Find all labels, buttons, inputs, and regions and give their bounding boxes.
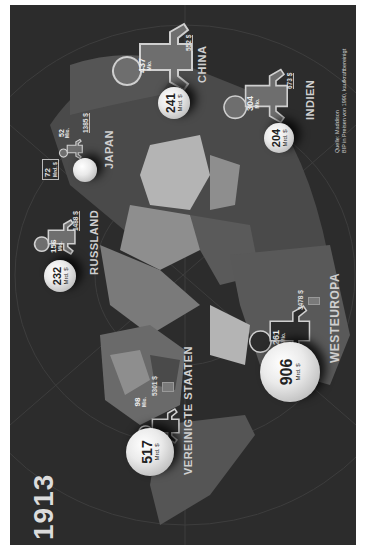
gdp-unit: Mrd. $	[295, 359, 301, 386]
person-icon	[58, 137, 84, 161]
westeuropa-gdp-per-capita: 3478 $	[297, 290, 304, 310]
russland-gdp: 232	[52, 267, 63, 285]
usa-population: 98Mio.	[134, 397, 147, 407]
westeuropa-label: WESTEUROPA	[328, 273, 342, 363]
westeuropa-gdp-ball: 906Mrd. $	[260, 342, 320, 402]
russland-label: RUSSLAND	[88, 210, 100, 275]
usa-gdp-ball: 517Mrd. $	[126, 428, 174, 476]
indien-population: 304Mio.	[246, 96, 260, 111]
indien-gdp-per-capita: 673 $	[286, 73, 294, 89]
russland-population: 156Mio.	[50, 240, 63, 253]
china-gdp-per-capita: 552 $	[185, 35, 193, 51]
japan-gdp-per-capita: 1385 $	[82, 113, 90, 133]
china-label: CHINA	[196, 46, 208, 83]
russland-gdp-per-capita: 1488 $	[72, 211, 80, 231]
usa-gdp-per-capita: 5301 $	[151, 376, 158, 396]
source-line-1: Quelle: Maddison	[334, 49, 341, 153]
japan-population: 52Mio.	[58, 128, 70, 138]
russland-gdp-ball: 232Mrd. $	[44, 260, 76, 292]
source-line-2: BIP in Preisen von 1990, kaufkraftberein…	[341, 49, 348, 153]
gdp-unit: Mrd. $	[177, 93, 183, 113]
china-gdp: 241	[165, 93, 177, 113]
indien-gdp-ball: 204Mrd. $	[264, 123, 294, 153]
japan-gdp: 72Mrd. $	[42, 159, 59, 180]
person-icon	[108, 22, 198, 92]
indien-gdp: 204	[271, 129, 282, 147]
source-note: Quelle: Maddison BIP in Preisen von 1990…	[334, 49, 348, 153]
year-title: 1913	[28, 474, 60, 540]
westeuropa-gdp: 906	[279, 359, 295, 386]
usa-label: VEREINIGTE STAATEN	[182, 346, 194, 475]
infographic-panel: 1913 Quelle: Maddison BIP in Preisen von…	[10, 5, 356, 545]
usa-gdp: 517	[140, 440, 154, 463]
gdp-unit: Mrd. $	[154, 440, 160, 463]
gdp-unit: Mrd. $	[282, 129, 288, 147]
flag-icon	[308, 297, 320, 305]
japan-label: JAPAN	[103, 130, 115, 169]
flag-icon	[162, 382, 174, 392]
china-gdp-ball: 241Mrd. $	[158, 87, 190, 119]
china-population: 437Mio.	[138, 58, 152, 73]
indien-label: INDIEN	[304, 80, 316, 120]
gdp-unit: Mrd. $	[63, 267, 69, 285]
japan-gdp-ball	[73, 158, 97, 182]
